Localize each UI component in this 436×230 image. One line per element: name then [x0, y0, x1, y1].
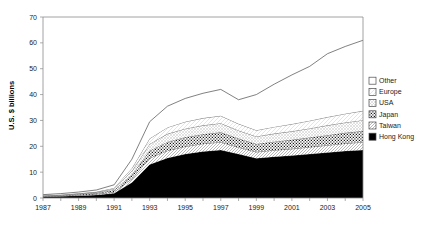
legend-swatch-icon: [369, 133, 376, 140]
x-tick-label: 2005: [355, 204, 371, 211]
y-tick-label: 0: [33, 195, 37, 202]
x-tick-label: 2003: [320, 204, 336, 211]
chart-legend: OtherEuropeUSAJapanTaiwanHong Kong: [369, 77, 414, 141]
legend-item-europe[interactable]: Europe: [369, 88, 402, 96]
y-tick-label: 60: [29, 39, 37, 46]
y-axis-title: U.S. $ billions: [7, 81, 16, 130]
y-tick-label: 50: [29, 65, 37, 72]
legend-swatch-icon: [369, 122, 376, 129]
legend-item-hong-kong[interactable]: Hong Kong: [369, 133, 414, 141]
legend-item-label: Other: [379, 77, 397, 84]
y-tick-label: 70: [29, 14, 37, 21]
stacked-area-chart: 010203040506070 198719891991199319951997…: [0, 0, 436, 230]
chart-container: 010203040506070 198719891991199319951997…: [0, 0, 436, 230]
x-tick-label: 1995: [177, 204, 193, 211]
y-tick-label: 40: [29, 91, 37, 98]
legend-item-label: Europe: [379, 88, 402, 96]
legend-item-other[interactable]: Other: [369, 77, 397, 84]
x-tick-label: 1987: [35, 204, 51, 211]
legend-swatch-icon: [369, 77, 376, 84]
legend-swatch-icon: [369, 111, 376, 118]
x-axis: 1987198919911993199519971999200120032005: [35, 198, 371, 211]
x-tick-label: 1989: [71, 204, 87, 211]
legend-swatch-icon: [369, 100, 376, 107]
legend-item-usa[interactable]: USA: [369, 99, 394, 106]
y-tick-label: 20: [29, 143, 37, 150]
x-tick-label: 1997: [213, 204, 229, 211]
legend-swatch-icon: [369, 88, 376, 95]
x-tick-label: 2001: [284, 204, 300, 211]
x-tick-label: 1993: [142, 204, 158, 211]
y-tick-label: 10: [29, 169, 37, 176]
legend-item-taiwan[interactable]: Taiwan: [369, 122, 401, 129]
legend-item-label: USA: [379, 99, 394, 106]
legend-item-label: Japan: [379, 111, 398, 119]
legend-item-label: Hong Kong: [379, 133, 414, 141]
legend-item-label: Taiwan: [379, 122, 401, 129]
y-axis-title-text: U.S. $ billions: [7, 81, 16, 130]
y-tick-label: 30: [29, 117, 37, 124]
x-tick-label: 1999: [249, 204, 265, 211]
y-axis: 010203040506070: [29, 14, 43, 202]
x-tick-label: 1991: [106, 204, 122, 211]
legend-item-japan[interactable]: Japan: [369, 111, 398, 119]
